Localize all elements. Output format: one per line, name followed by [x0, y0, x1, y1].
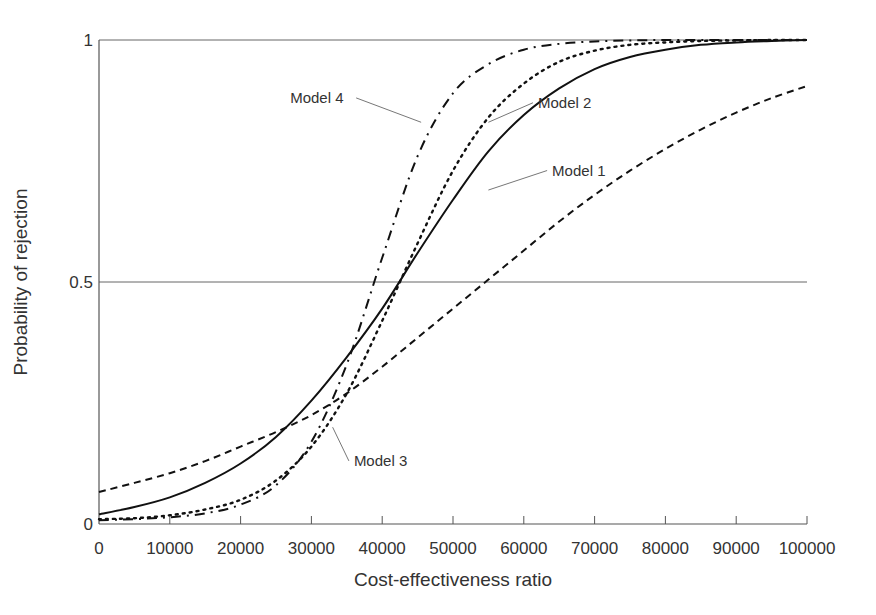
chart: 0100002000030000400005000060000700008000…	[0, 0, 876, 615]
y-tick-label: 0.5	[69, 273, 93, 292]
x-tick-label: 30000	[288, 539, 335, 558]
x-tick-label: 70000	[571, 539, 618, 558]
curve-model-4	[99, 40, 807, 520]
x-tick-label: 100000	[779, 539, 836, 558]
x-tick-label: 40000	[359, 539, 406, 558]
annotation-label: Model 2	[538, 94, 591, 111]
x-tick-label: 80000	[642, 539, 689, 558]
annotation-leader	[356, 98, 421, 122]
annotation-label: Model 4	[290, 89, 343, 106]
reference-lines	[99, 40, 807, 282]
x-tick-label: 10000	[146, 539, 193, 558]
x-axis-title: Cost-effectiveness ratio	[354, 569, 552, 590]
x-tick-label: 60000	[500, 539, 547, 558]
y-axis-title: Probability of rejection	[10, 189, 31, 376]
x-tick-label: 50000	[429, 539, 476, 558]
y-tick-label: 0	[84, 515, 93, 534]
x-tick-label: 0	[94, 539, 103, 558]
y-tick-label: 1	[84, 31, 93, 50]
annotation-label: Model 1	[552, 162, 605, 179]
curve-model-2	[99, 40, 807, 514]
curve-model-3	[99, 40, 807, 519]
x-tick-label: 20000	[217, 539, 264, 558]
curve-model-1	[99, 86, 807, 492]
curves	[99, 40, 807, 520]
annotations: Model 1Model 2Model 3Model 4	[290, 89, 605, 469]
annotation-label: Model 3	[354, 452, 407, 469]
x-tick-label: 90000	[713, 539, 760, 558]
annotation-leader	[333, 427, 349, 461]
axes: 0100002000030000400005000060000700008000…	[69, 31, 835, 558]
annotation-leader	[488, 171, 547, 191]
